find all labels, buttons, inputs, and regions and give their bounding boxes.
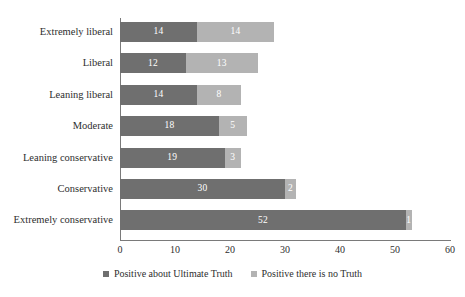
- x-axis-line: [120, 240, 451, 241]
- legend-label: Positive about Ultimate Truth: [114, 268, 233, 279]
- bar-value-label: 2: [288, 184, 293, 194]
- bar-segment: 8: [197, 85, 241, 105]
- chart-legend: Positive about Ultimate TruthPositive th…: [0, 268, 465, 279]
- bar-value-label: 12: [148, 59, 158, 69]
- bar-segment: 13: [186, 53, 258, 73]
- bar-value-label: 5: [230, 121, 235, 131]
- bar-segment: 30: [120, 179, 285, 199]
- category-label: Leaning conservative: [0, 148, 113, 168]
- stacked-bar-chart: Extremely liberalLiberalLeaning liberalM…: [0, 0, 465, 297]
- bar-segment: 1: [406, 210, 412, 230]
- bar-row: 521: [120, 210, 412, 230]
- x-tick-label: 50: [375, 243, 415, 256]
- category-label: Liberal: [0, 53, 113, 73]
- bar-value-label: 30: [198, 184, 208, 194]
- bar-row: 148: [120, 85, 241, 105]
- bar-segment: 14: [120, 85, 197, 105]
- legend-item[interactable]: Positive about Ultimate Truth: [103, 268, 233, 279]
- bar-value-label: 1: [406, 216, 411, 226]
- category-label: Conservative: [0, 179, 113, 199]
- bar-value-label: 18: [165, 121, 175, 131]
- legend-swatch-icon: [251, 271, 257, 277]
- category-label: Extremely conservative: [0, 210, 113, 230]
- bar-segment: 18: [120, 116, 219, 136]
- bar-row: 185: [120, 116, 247, 136]
- x-tick-label: 30: [265, 243, 305, 256]
- x-tick-label: 60: [430, 243, 465, 256]
- bar-row: 302: [120, 179, 296, 199]
- bar-value-label: 52: [258, 216, 268, 226]
- bar-segment: 3: [225, 148, 242, 168]
- category-label: Leaning liberal: [0, 85, 113, 105]
- bar-value-label: 14: [231, 27, 241, 37]
- x-tick-label: 10: [155, 243, 195, 256]
- legend-label: Positive there is no Truth: [262, 268, 363, 279]
- bar-segment: 2: [285, 179, 296, 199]
- legend-item[interactable]: Positive there is no Truth: [251, 268, 363, 279]
- bar-value-label: 3: [230, 153, 235, 163]
- x-tick-label: 40: [320, 243, 360, 256]
- bar-row: 1213: [120, 53, 258, 73]
- bar-value-label: 14: [154, 90, 164, 100]
- bar-row: 1414: [120, 22, 274, 42]
- bar-segment: 12: [120, 53, 186, 73]
- bar-value-label: 13: [217, 59, 227, 69]
- bar-value-label: 19: [167, 153, 177, 163]
- bar-row: 193: [120, 148, 241, 168]
- bar-segment: 52: [120, 210, 406, 230]
- x-tick-label: 20: [210, 243, 250, 256]
- bar-segment: 14: [197, 22, 274, 42]
- category-label: Extremely liberal: [0, 22, 113, 42]
- bar-segment: 19: [120, 148, 225, 168]
- bar-segment: 5: [219, 116, 247, 136]
- legend-swatch-icon: [103, 271, 109, 277]
- category-label: Moderate: [0, 116, 113, 136]
- x-tick-label: 0: [100, 243, 140, 256]
- bar-value-label: 14: [154, 27, 164, 37]
- bar-segment: 14: [120, 22, 197, 42]
- bar-value-label: 8: [217, 90, 222, 100]
